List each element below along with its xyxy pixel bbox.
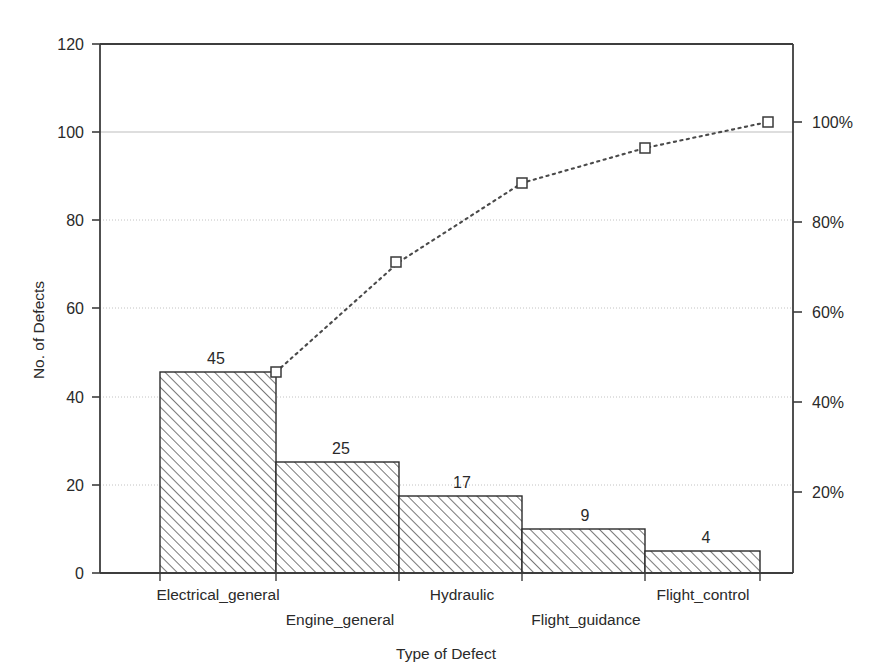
left-tick-label-80: 80	[66, 212, 84, 229]
bar-electrical-general[interactable]	[160, 372, 276, 573]
bar-value-label-5: 4	[702, 529, 711, 546]
x-axis-title: Type of Defect	[396, 645, 497, 662]
left-tick-label-0: 0	[75, 565, 84, 582]
chart-canvas: 120 100 80 60 40 20 0 100% 80% 60% 40% 2…	[0, 0, 873, 672]
category-label-flight-guidance: Flight_guidance	[531, 611, 640, 628]
cumulative-marker-3[interactable]	[517, 178, 527, 188]
left-tick-label-40: 40	[66, 389, 84, 406]
right-tick-label-80: 80%	[812, 214, 844, 231]
bar-hydraulic[interactable]	[399, 496, 522, 573]
bar-engine-general[interactable]	[276, 462, 399, 573]
y-axis-title: No. of Defects	[30, 281, 47, 379]
pareto-chart: 120 100 80 60 40 20 0 100% 80% 60% 40% 2…	[0, 0, 873, 672]
category-label-electrical-general: Electrical_general	[156, 586, 279, 603]
right-tick-label-100: 100%	[812, 114, 853, 131]
bar-value-label-4: 9	[581, 507, 590, 524]
cumulative-marker-2[interactable]	[391, 257, 401, 267]
left-tick-label-20: 20	[66, 477, 84, 494]
bar-value-label-2: 25	[332, 440, 350, 457]
bar-value-label-1: 45	[207, 350, 225, 367]
cumulative-marker-5[interactable]	[763, 117, 773, 127]
left-tick-label-60: 60	[66, 300, 84, 317]
category-label-engine-general: Engine_general	[286, 611, 395, 628]
bar-flight-control[interactable]	[645, 551, 760, 573]
bar-flight-guidance[interactable]	[522, 529, 645, 573]
cumulative-marker-1[interactable]	[271, 367, 281, 377]
right-tick-label-40: 40%	[812, 394, 844, 411]
left-tick-label-120: 120	[57, 36, 84, 53]
cumulative-marker-4[interactable]	[640, 143, 650, 153]
left-tick-label-100: 100	[57, 124, 84, 141]
bar-value-label-3: 17	[453, 474, 471, 491]
category-label-hydraulic: Hydraulic	[430, 586, 495, 603]
right-tick-label-60: 60%	[812, 304, 844, 321]
category-label-flight-control: Flight_control	[656, 586, 749, 603]
right-tick-label-20: 20%	[812, 484, 844, 501]
